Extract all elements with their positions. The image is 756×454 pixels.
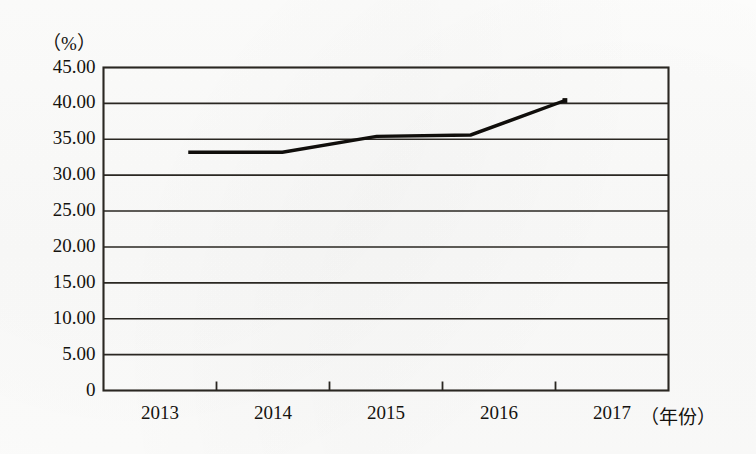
line-chart-plot xyxy=(0,0,756,454)
chart-page: （%） （年份） 45.0040.0035.0030.0025.0020.001… xyxy=(0,0,756,454)
plot-border xyxy=(104,68,669,391)
gridline-group xyxy=(104,103,669,354)
data-line xyxy=(188,101,565,153)
plot-frame xyxy=(104,68,669,391)
data-series-group xyxy=(188,98,567,152)
x-tick-mark-group xyxy=(217,382,556,391)
data-point-marker xyxy=(563,98,568,103)
